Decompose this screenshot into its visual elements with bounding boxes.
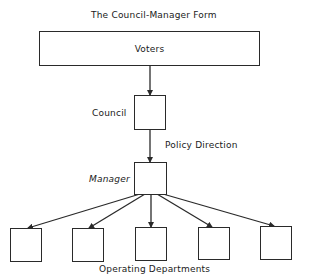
manager-box (134, 162, 167, 195)
department-box-5 (260, 226, 292, 260)
council-label: Council (92, 108, 127, 118)
manager-label: Manager (89, 174, 130, 184)
arrow-manager-dept2 (89, 194, 145, 228)
council-box (134, 95, 166, 130)
department-box-2 (72, 228, 104, 262)
department-box-1 (10, 228, 42, 262)
policy-direction-label: Policy Direction (165, 140, 238, 150)
department-box-4 (198, 227, 230, 260)
operating-departments-label: Operating Departments (99, 264, 210, 274)
arrow-manager-dept5 (163, 194, 274, 226)
department-box-3 (135, 227, 167, 261)
arrow-manager-dept1 (28, 194, 140, 228)
arrow-manager-dept4 (157, 194, 212, 227)
